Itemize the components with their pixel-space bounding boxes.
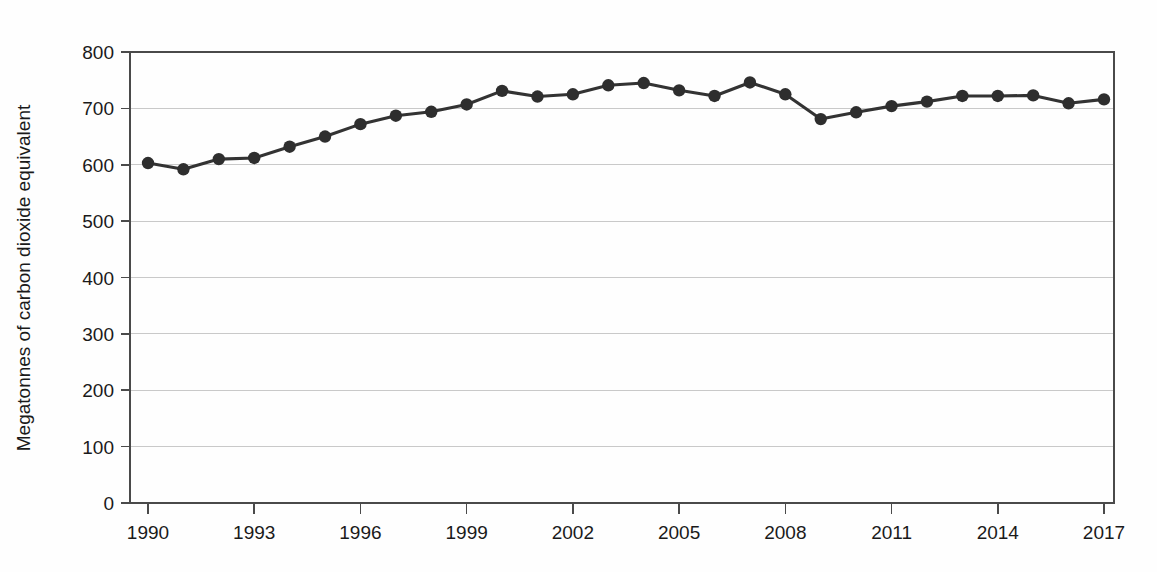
data-point [531,90,543,102]
y-axis-tick-labels: 0100200300400500600700800 [82,42,114,514]
data-point [779,88,791,100]
data-point [319,130,331,142]
y-tick-label: 0 [103,493,114,514]
y-axis-ticks [121,52,130,503]
x-tick-label: 1999 [446,522,488,543]
x-tick-label: 2011 [871,522,912,543]
data-point [248,152,260,164]
y-axis-title: Megatonnes of carbon dioxide equivalent [13,104,34,451]
data-point [460,98,472,110]
data-point [354,118,366,130]
x-tick-label: 1996 [339,522,381,543]
line-chart: 0100200300400500600700800 19901993199619… [0,0,1157,572]
data-point [1062,97,1074,109]
data-point [1027,89,1039,101]
data-series-layer [142,76,1110,175]
data-point [142,157,154,169]
data-point [638,77,650,89]
x-tick-label: 1990 [127,522,169,543]
data-point [567,88,579,100]
y-tick-label: 100 [82,437,114,458]
data-point [850,106,862,118]
data-point [673,84,685,96]
data-point [885,100,897,112]
y-tick-label: 700 [82,98,114,119]
x-tick-label: 2002 [552,522,594,543]
data-point [390,110,402,122]
y-tick-label: 200 [82,380,114,401]
x-tick-label: 2008 [764,522,806,543]
y-tick-label: 800 [82,42,114,63]
data-point [815,113,827,125]
data-point [708,90,720,102]
data-point [956,90,968,102]
y-tick-label: 400 [82,268,114,289]
y-tick-label: 500 [82,211,114,232]
y-tick-label: 600 [82,155,114,176]
data-point [744,76,756,88]
x-tick-label: 2014 [977,522,1020,543]
data-point [1098,93,1110,105]
y-tick-label: 300 [82,324,114,345]
series-markers-group [142,76,1110,175]
x-axis-tick-labels: 1990199319961999200220052008201120142017 [127,522,1125,543]
data-point [213,153,225,165]
data-point [425,106,437,118]
gridlines-group [130,52,1114,447]
data-point [921,95,933,107]
data-point [496,85,508,97]
chart-container: 0100200300400500600700800 19901993199619… [0,0,1157,572]
data-point [177,163,189,175]
x-axis-ticks [148,503,1104,514]
data-point [283,141,295,153]
x-tick-label: 2005 [658,522,700,543]
x-tick-label: 2017 [1083,522,1125,543]
data-point [602,79,614,91]
data-point [992,90,1004,102]
x-tick-label: 1993 [233,522,275,543]
